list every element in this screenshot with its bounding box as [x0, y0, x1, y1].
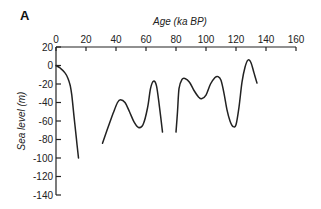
y-tick-label: 0 — [47, 60, 53, 71]
y-tick-label: -40 — [39, 97, 54, 108]
x-tick-label: 140 — [258, 34, 275, 45]
x-tick-label: 80 — [170, 34, 182, 45]
x-tick-label: 20 — [80, 34, 92, 45]
panel-label: A — [20, 8, 30, 23]
x-tick-label: 120 — [228, 34, 245, 45]
sea-level-curve-segment-1 — [56, 66, 79, 159]
y-tick-label: -80 — [39, 134, 54, 145]
x-tick-label: 160 — [288, 34, 305, 45]
y-tick-label: -140 — [33, 190, 53, 201]
sea-level-curve-segment-2 — [103, 81, 163, 143]
x-tick-label: 0 — [53, 34, 59, 45]
x-axis-title: Age (ka BP) — [152, 16, 207, 27]
series-layer — [56, 60, 257, 158]
sea-level-curve-segment-3 — [176, 60, 257, 132]
y-tick-label: 20 — [42, 42, 54, 53]
y-tick-label: -60 — [39, 116, 54, 127]
y-tick-label: -120 — [33, 171, 53, 182]
sea-level-chart: A Age (ka BP) Sea level (m) 020406080100… — [0, 0, 321, 209]
y-tick-label: -100 — [33, 153, 53, 164]
x-axis: 020406080100120140160 — [53, 34, 305, 51]
y-tick-label: -20 — [39, 79, 54, 90]
y-axis-title-group: Sea level (m) — [16, 92, 27, 151]
y-axis-title: Sea level (m) — [16, 92, 27, 151]
x-tick-label: 60 — [140, 34, 152, 45]
x-tick-label: 100 — [198, 34, 215, 45]
x-tick-label: 40 — [110, 34, 122, 45]
